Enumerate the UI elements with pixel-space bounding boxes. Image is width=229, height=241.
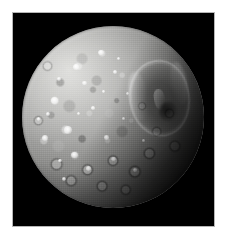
photo-frame <box>12 12 215 227</box>
moon-disk <box>22 26 204 208</box>
page-canvas <box>0 0 229 241</box>
space-background <box>13 13 214 226</box>
disk-edge-vignette <box>22 26 204 208</box>
